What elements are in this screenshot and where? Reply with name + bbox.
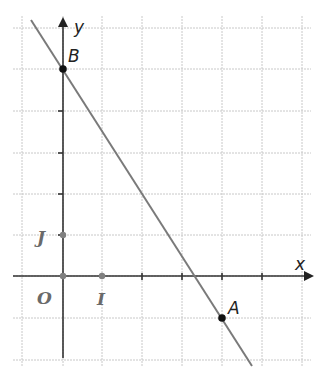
unit-j-label: J (34, 227, 46, 247)
y-axis-label: y (73, 17, 85, 37)
point-a (218, 314, 226, 322)
point-b (59, 65, 67, 73)
point-j (60, 232, 66, 238)
coordinate-plane: y x B A O I J (0, 0, 325, 385)
point-i (99, 273, 105, 279)
origin-point (60, 273, 66, 279)
origin-label: O (37, 288, 52, 308)
grid (13, 16, 311, 366)
point-b-label: B (68, 46, 80, 66)
point-a-label: A (227, 298, 240, 318)
axis-ticks (58, 111, 262, 280)
x-axis-label: x (294, 254, 306, 274)
unit-i-label: I (96, 289, 106, 309)
